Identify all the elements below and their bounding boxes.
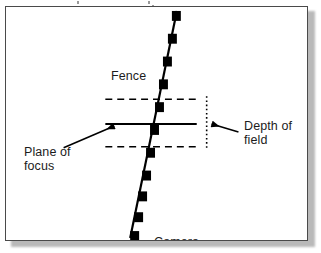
diagram-panel: Fence Camera Depth offield Plane offocus bbox=[5, 6, 308, 241]
fence-post bbox=[172, 11, 181, 21]
depth-of-field-label: Depth offield bbox=[244, 119, 292, 147]
scan-artifact-speck bbox=[148, 1, 150, 4]
fence-post bbox=[150, 125, 159, 135]
scan-artifact-speck bbox=[77, 1, 79, 4]
fence-post bbox=[146, 148, 155, 158]
plane-of-focus-arrow bbox=[64, 126, 115, 148]
depth-of-field-label-line1: Depth of bbox=[244, 119, 292, 133]
plane-of-focus-label: Plane offocus bbox=[24, 145, 71, 173]
depth-of-field-arrow bbox=[212, 124, 239, 132]
fence-post bbox=[159, 79, 168, 89]
fence-post bbox=[134, 212, 143, 222]
fence-post bbox=[168, 34, 177, 44]
plane-of-focus-label-line1: Plane of bbox=[24, 145, 71, 159]
figure-root: Fence Camera Depth offield Plane offocus bbox=[0, 0, 321, 253]
camera-label: Camera bbox=[154, 235, 199, 241]
fence-post bbox=[142, 171, 151, 181]
fence-post bbox=[138, 191, 147, 201]
fence-post bbox=[130, 231, 139, 240]
plane-of-focus-label-line2: focus bbox=[24, 159, 54, 173]
fence-post bbox=[155, 102, 164, 112]
fence-label: Fence bbox=[111, 69, 146, 83]
depth-of-field-label-line2: field bbox=[244, 133, 267, 147]
fence-post bbox=[163, 57, 172, 67]
